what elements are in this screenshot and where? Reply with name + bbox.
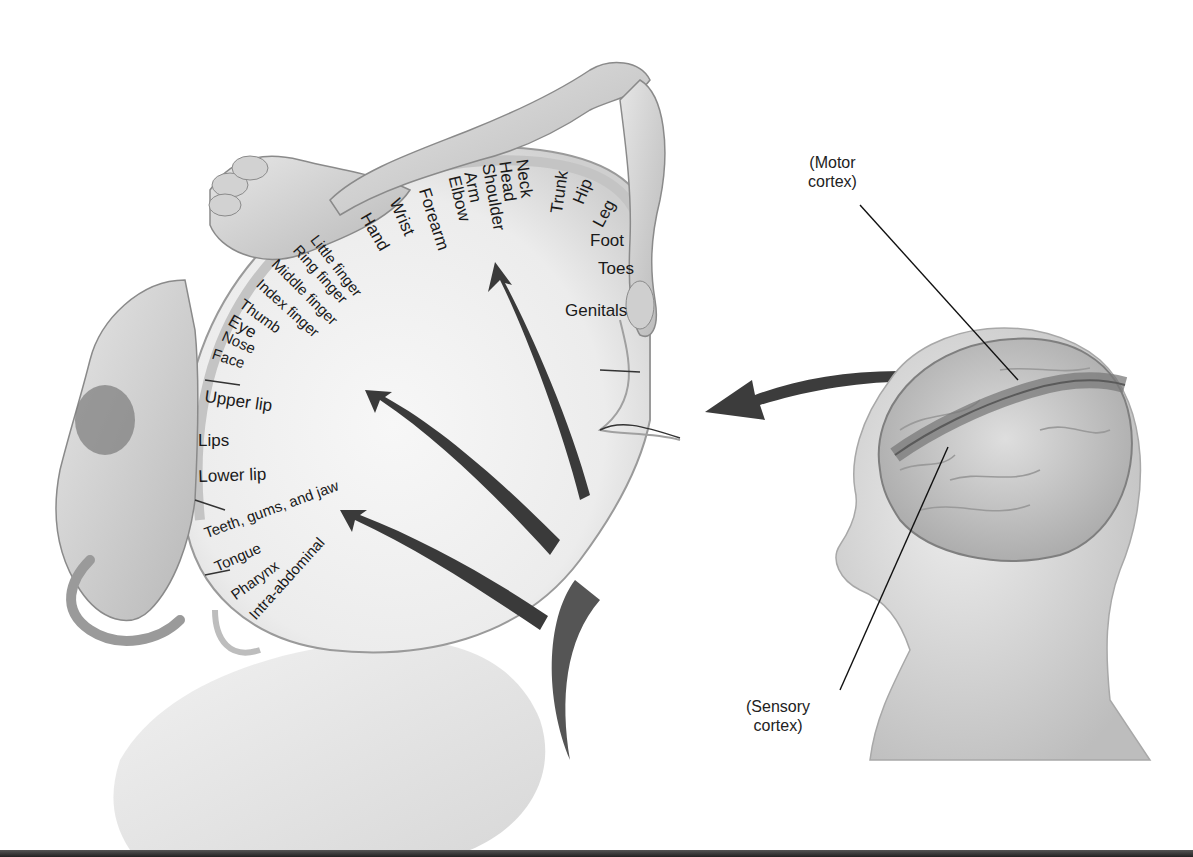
- label-lower-lip: Lower lip: [198, 466, 267, 485]
- diagram-canvas: Genitals Toes Foot Leg Hip Trunk Neck He…: [0, 0, 1193, 857]
- motor-line1: (Motor: [808, 153, 857, 172]
- illustration: [0, 0, 1193, 857]
- sensory-line1: (Sensory: [746, 697, 810, 716]
- sensory-line2: cortex): [746, 716, 810, 735]
- label-toes: Toes: [598, 260, 634, 277]
- label-genitals: Genitals: [565, 302, 627, 319]
- label-lips: Lips: [198, 432, 229, 449]
- callout-motor-cortex: (Motor cortex): [808, 153, 857, 191]
- label-foot: Foot: [590, 232, 624, 249]
- genitals-shape: [626, 281, 654, 329]
- brain-base: [113, 640, 545, 850]
- callout-sensory-cortex: (Sensory cortex): [746, 697, 810, 735]
- motor-line2: cortex): [808, 172, 857, 191]
- bottom-border: [0, 850, 1193, 857]
- mouth: [75, 385, 135, 455]
- arrow-crescent: [552, 580, 600, 760]
